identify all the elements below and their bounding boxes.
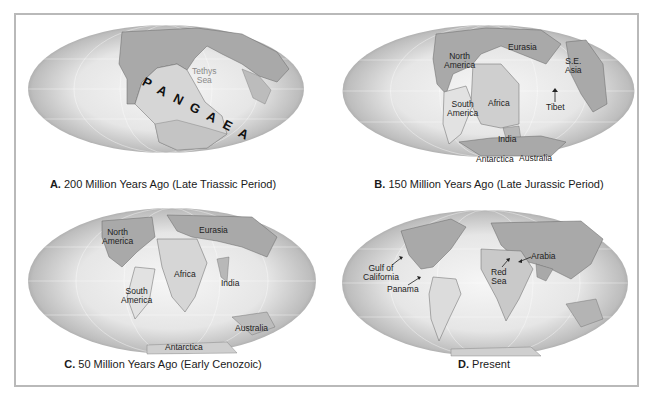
panel-d: Gulf of California Panama Red Sea Arabia… (326, 200, 652, 400)
label-arabia: Arabia (531, 252, 556, 261)
caption-d: D. Present (326, 358, 642, 370)
label-antarctica: Antarctica (165, 343, 203, 352)
label-africa: Africa (488, 99, 510, 108)
label-gulf-of-california: Gulf of California (363, 264, 399, 282)
globe-map-150mya (341, 24, 636, 158)
label-tibet: Tibet (546, 103, 565, 112)
label-north-america: North America (102, 228, 133, 246)
panel-a: Tethys Sea PANGAEA A. 200 Million Years … (0, 0, 326, 200)
caption-a: A. 200 Million Years Ago (Late Triassic … (0, 178, 326, 190)
panel-b: North America Eurasia S.E. Asia South Am… (326, 0, 652, 200)
label-red-sea: Red Sea (491, 268, 507, 286)
caption-c: C. 50 Million Years Ago (Early Cenozoic) (0, 358, 326, 370)
label-australia: Australia (519, 154, 552, 163)
arrow-red-sea-icon (501, 258, 511, 268)
label-tethys-sea: Tethys Sea (192, 67, 217, 85)
label-south-america: South America (447, 100, 478, 118)
arrow-panama-icon (408, 276, 422, 286)
label-africa: Africa (174, 270, 196, 279)
panel-c: North America Eurasia Africa India South… (0, 200, 326, 400)
label-india: India (221, 279, 239, 288)
label-eurasia: Eurasia (508, 43, 537, 52)
globe-map-50mya (27, 207, 317, 355)
label-south-america: South America (121, 287, 152, 305)
label-australia: Australia (235, 324, 268, 333)
label-se-asia: S.E. Asia (565, 57, 582, 75)
arrow-gulf-icon (392, 256, 404, 266)
label-panama: Panama (387, 285, 419, 294)
arrow-arabia-icon (518, 256, 532, 264)
globe-map-present (341, 209, 629, 357)
arrow-tibet-icon (552, 88, 558, 102)
label-eurasia: Eurasia (199, 226, 228, 235)
label-antarctica: Antarctica (476, 155, 514, 164)
caption-b: B. 150 Million Years Ago (Late Jurassic … (326, 178, 652, 190)
label-india: India (498, 135, 516, 144)
label-north-america: North America (444, 52, 475, 70)
